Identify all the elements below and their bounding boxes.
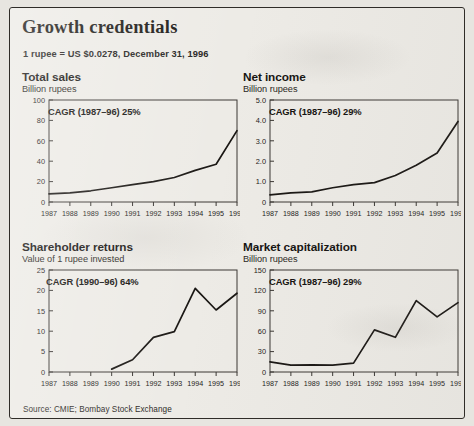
svg-text:150: 150 <box>254 266 266 275</box>
svg-text:1993: 1993 <box>166 209 182 218</box>
svg-text:1992: 1992 <box>145 379 161 388</box>
chart-title-market-capitalization: Market capitalization <box>243 240 357 254</box>
svg-text:0: 0 <box>262 368 266 377</box>
svg-text:5: 5 <box>41 347 45 356</box>
svg-text:1987: 1987 <box>262 379 278 388</box>
svg-text:1.0: 1.0 <box>256 177 266 186</box>
svg-text:1991: 1991 <box>125 379 141 388</box>
svg-text:5.0: 5.0 <box>256 96 266 105</box>
chart-panel-shareholder-returns: Shareholder returns Value of 1 rupee inv… <box>22 240 240 400</box>
chart-title-total-sales: Total sales <box>22 70 81 84</box>
svg-text:1992: 1992 <box>366 209 382 218</box>
page-title: Growth credentials <box>22 17 178 38</box>
svg-text:1989: 1989 <box>304 379 320 388</box>
svg-text:90: 90 <box>258 307 266 316</box>
svg-text:1987: 1987 <box>41 209 57 218</box>
chart-panel-net-income: Net income Billion rupees 01.02.03.04.05… <box>243 70 461 230</box>
chart-panel-market-capitalization: Market capitalization Billion rupees 030… <box>243 240 461 400</box>
chart-subtitle-total-sales: Billion rupees <box>22 84 76 94</box>
svg-text:1991: 1991 <box>346 209 362 218</box>
annotation-cagr-shareholder-returns: CAGR (1990–96) 64% <box>46 276 139 287</box>
svg-text:1995: 1995 <box>429 209 445 218</box>
svg-text:1991: 1991 <box>125 209 141 218</box>
svg-text:10: 10 <box>37 327 45 336</box>
annotation-cagr-net-income: CAGR (1987–96) 29% <box>269 106 362 117</box>
svg-text:1988: 1988 <box>283 379 299 388</box>
svg-text:1995: 1995 <box>208 209 224 218</box>
svg-text:1987: 1987 <box>262 209 278 218</box>
annotation-cagr-market-capitalization: CAGR (1987–96) 29% <box>269 276 362 287</box>
svg-text:20: 20 <box>37 286 45 295</box>
svg-text:30: 30 <box>258 347 266 356</box>
source-note: Source: CMIE; Bombay Stock Exchange <box>23 405 172 414</box>
svg-text:1989: 1989 <box>83 379 99 388</box>
chart-title-shareholder-returns: Shareholder returns <box>22 240 133 254</box>
svg-text:1992: 1992 <box>366 379 382 388</box>
chart-panel-total-sales: Total sales Billion rupees 0204060801001… <box>22 70 240 230</box>
svg-text:120: 120 <box>254 286 266 295</box>
svg-text:1993: 1993 <box>387 209 403 218</box>
svg-text:0: 0 <box>41 198 45 207</box>
svg-text:1994: 1994 <box>187 379 203 388</box>
exchange-rate-note: 1 rupee = US $0.0278, December 31, 1996 <box>23 49 209 59</box>
chart-subtitle-net-income: Billion rupees <box>243 84 297 94</box>
svg-text:1993: 1993 <box>166 379 182 388</box>
article-frame: Growth credentials 1 rupee = US $0.0278,… <box>9 7 465 419</box>
svg-text:1996: 1996 <box>229 379 240 388</box>
svg-text:1996: 1996 <box>450 379 461 388</box>
svg-text:1993: 1993 <box>387 379 403 388</box>
svg-text:1989: 1989 <box>304 209 320 218</box>
svg-text:1990: 1990 <box>104 379 120 388</box>
annotation-cagr-total-sales: CAGR (1987–96) 25% <box>48 106 141 117</box>
svg-text:1988: 1988 <box>283 209 299 218</box>
svg-text:1990: 1990 <box>325 379 341 388</box>
chart-subtitle-market-capitalization: Billion rupees <box>243 254 297 264</box>
svg-text:1995: 1995 <box>208 379 224 388</box>
svg-text:3.0: 3.0 <box>256 137 266 146</box>
svg-text:1988: 1988 <box>62 209 78 218</box>
svg-text:0: 0 <box>262 198 266 207</box>
svg-text:40: 40 <box>37 157 45 166</box>
svg-text:2.0: 2.0 <box>256 157 266 166</box>
svg-text:1992: 1992 <box>145 209 161 218</box>
svg-text:1996: 1996 <box>229 209 240 218</box>
svg-text:60: 60 <box>37 137 45 146</box>
svg-text:1994: 1994 <box>408 209 424 218</box>
svg-text:1990: 1990 <box>104 209 120 218</box>
svg-text:1990: 1990 <box>325 209 341 218</box>
svg-text:1995: 1995 <box>429 379 445 388</box>
svg-text:1988: 1988 <box>62 379 78 388</box>
svg-text:15: 15 <box>37 307 45 316</box>
svg-text:1989: 1989 <box>83 209 99 218</box>
svg-text:20: 20 <box>37 177 45 186</box>
svg-text:1996: 1996 <box>450 209 461 218</box>
svg-text:100: 100 <box>33 96 45 105</box>
svg-text:80: 80 <box>37 116 45 125</box>
svg-text:60: 60 <box>258 327 266 336</box>
svg-text:0: 0 <box>41 368 45 377</box>
svg-text:1991: 1991 <box>346 379 362 388</box>
chart-subtitle-shareholder-returns: Value of 1 rupee invested <box>22 254 124 264</box>
page-root: Growth credentials 1 rupee = US $0.0278,… <box>0 0 474 426</box>
svg-text:25: 25 <box>37 266 45 275</box>
svg-text:4.0: 4.0 <box>256 116 266 125</box>
svg-text:1987: 1987 <box>41 379 57 388</box>
svg-text:1994: 1994 <box>187 209 203 218</box>
svg-text:1994: 1994 <box>408 379 424 388</box>
chart-title-net-income: Net income <box>243 70 306 84</box>
